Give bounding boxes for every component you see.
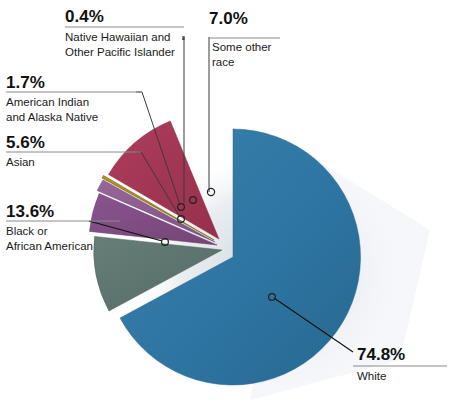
callout-american-indian[interactable]: 1.7% American Indian and Alaska Native	[6, 73, 142, 123]
callout-some-other-race-pct: 7.0%	[209, 9, 248, 28]
callout-some-other-race-caption-1: Some other	[212, 41, 272, 53]
callout-white-caption: White	[357, 370, 386, 382]
callout-american-indian-pct: 1.7%	[6, 73, 45, 92]
pie-chart-svg: 0.4% Native Hawaiian and Other Pacific I…	[0, 0, 453, 419]
callout-white[interactable]: 74.8% White	[353, 345, 447, 382]
callout-native-hawaiian[interactable]: 0.4% Native Hawaiian and Other Pacific I…	[65, 7, 184, 58]
callout-white-pct: 74.8%	[357, 345, 405, 364]
callout-asian-pct: 5.6%	[6, 133, 45, 152]
callout-asian-caption: Asian	[6, 156, 35, 168]
callout-american-indian-caption-2: and Alaska Native	[6, 111, 98, 123]
callout-some-other-race-caption-2: race	[212, 56, 234, 68]
callout-black-african-american-pct: 13.6%	[6, 202, 54, 221]
callout-native-hawaiian-pct: 0.4%	[65, 7, 104, 26]
callout-some-other-race[interactable]: 7.0% Some other race	[209, 9, 280, 68]
callout-american-indian-caption-1: American Indian	[6, 96, 89, 108]
callout-black-african-american-caption-1: Black or	[6, 225, 48, 237]
callout-black-african-american-caption-2: African American	[6, 240, 93, 252]
callout-native-hawaiian-caption-2: Other Pacific Islander	[65, 46, 175, 58]
callout-native-hawaiian-caption-1: Native Hawaiian and	[65, 31, 170, 43]
pie-chart-figure: 0.4% Native Hawaiian and Other Pacific I…	[0, 0, 453, 419]
